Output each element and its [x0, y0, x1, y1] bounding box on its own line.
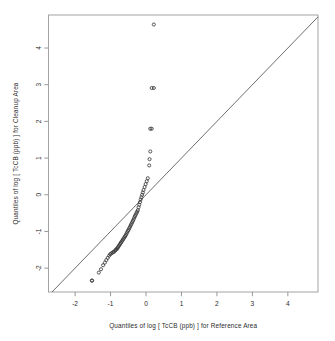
data-point — [148, 158, 151, 161]
plot-frame — [49, 15, 319, 292]
x-axis: -2-101234 — [72, 292, 290, 307]
y-tick-label: 0 — [36, 193, 43, 197]
data-point-outlier — [152, 23, 155, 26]
y-tick-label: -1 — [36, 228, 43, 234]
x-tick-label: 2 — [215, 300, 219, 307]
data-point — [148, 164, 151, 167]
y-axis: -2-101234 — [36, 46, 49, 271]
reference-line-1-to-1 — [52, 17, 318, 292]
data-point — [99, 268, 102, 271]
x-tick-label: 4 — [286, 300, 290, 307]
x-tick-label: 0 — [144, 300, 148, 307]
y-tick-label: 4 — [36, 46, 43, 50]
y-axis-title: Quantiles of log [ TcCB (ppb) ] for Clea… — [12, 82, 20, 224]
data-point-outlier — [150, 86, 153, 89]
y-tick-label: -2 — [36, 265, 43, 271]
y-tick-label: 2 — [36, 119, 43, 123]
y-tick-label: 1 — [36, 156, 43, 160]
qq-plot-figure: -2-101234-2-101234Quantiles of log [ TcC… — [0, 0, 335, 341]
x-axis-title: Quantiles of log [ TcCB (ppb) ] for Refe… — [109, 322, 257, 330]
plot-canvas: -2-101234-2-101234Quantiles of log [ TcC… — [0, 0, 335, 341]
x-tick-label: -2 — [72, 300, 78, 307]
y-tick-label: 3 — [36, 83, 43, 87]
x-tick-label: 3 — [251, 300, 255, 307]
data-point — [97, 271, 100, 274]
data-points-group — [90, 23, 155, 282]
x-tick-label: 1 — [180, 300, 184, 307]
data-point — [146, 177, 149, 180]
x-tick-label: -1 — [108, 300, 114, 307]
data-point — [149, 150, 152, 153]
